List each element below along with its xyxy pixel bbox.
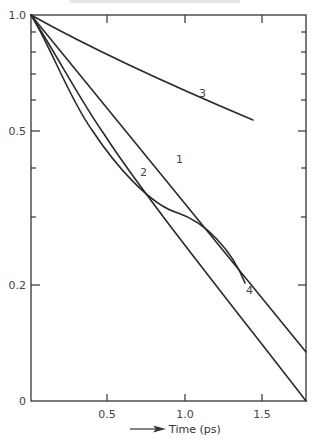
y-tick-label-0-2: 0.2: [9, 279, 27, 292]
y-tick-label-0: 0: [19, 395, 26, 408]
curve-label-3: 3: [199, 87, 206, 100]
x-tick-label-1-5: 1.5: [253, 408, 271, 421]
curve-label-2: 2: [140, 166, 147, 179]
curve-1: [31, 15, 306, 352]
x-tick-label-0-5: 0.5: [98, 408, 116, 421]
decay-chart: 1.0 0.5 0.2 0 0.5 1.0 1.5 Time (ps) 1 2 …: [0, 0, 313, 439]
x-ticks: [107, 15, 262, 401]
x-tick-label-1-0: 1.0: [176, 408, 194, 421]
curve-label-1: 1: [176, 153, 183, 166]
arrow-right-icon: [130, 426, 166, 433]
plot-frame: [31, 15, 306, 401]
curve-2: [31, 15, 306, 401]
x-axis-title: Time (ps): [168, 423, 221, 436]
curve-label-4: 4: [246, 284, 253, 297]
y-tick-label-1-0: 1.0: [9, 9, 27, 22]
cropped-header: [70, 0, 240, 3]
y-ticks: [31, 32, 306, 285]
y-tick-label-0-5: 0.5: [9, 125, 27, 138]
curve-3: [31, 15, 253, 120]
